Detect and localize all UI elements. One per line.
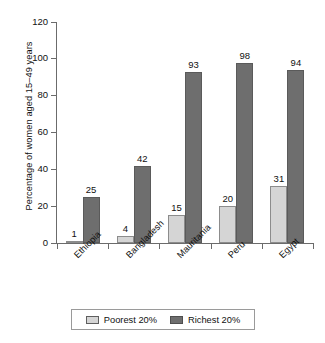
bar-egypt-richest [287, 70, 304, 243]
legend-swatch-poorest-icon [86, 316, 99, 324]
y-axis-tick-label: 60 [18, 126, 48, 137]
legend-label-richest: Richest 20% [188, 315, 240, 325]
y-axis-tick-label: 120 [18, 16, 48, 27]
legend-item-richest: Richest 20% [170, 315, 240, 325]
y-axis-tick-label: 80 [18, 89, 48, 100]
value-label: 1 [62, 228, 86, 239]
y-axis-tick-label: 20 [18, 200, 48, 211]
value-label: 42 [130, 153, 154, 164]
bar-bangladesh-poorest [117, 236, 134, 243]
bar-ethiopia-poorest [66, 241, 83, 243]
value-label: 94 [284, 57, 308, 68]
chart-legend: Poorest 20% Richest 20% [71, 309, 255, 330]
bar-mauritania-poorest [168, 215, 185, 243]
legend-item-poorest: Poorest 20% [86, 315, 157, 325]
bar-egypt-poorest [270, 186, 287, 243]
y-axis-tick-label: 0 [18, 237, 48, 248]
value-label: 4 [113, 223, 137, 234]
bar-chart: Percentage of women aged 15–49 years 020… [0, 0, 325, 343]
y-axis-tick-label: 40 [18, 163, 48, 174]
value-label: 98 [233, 50, 257, 61]
bar-peru-richest [236, 63, 253, 243]
category-labels: EthiopiaBangladeshMauritaniaPeruEgypt [0, 247, 325, 305]
value-label: 93 [182, 59, 206, 70]
value-label: 20 [216, 193, 240, 204]
bar-peru-poorest [219, 206, 236, 243]
value-label: 31 [267, 173, 291, 184]
legend-label-poorest: Poorest 20% [104, 315, 157, 325]
bar-mauritania-richest [185, 72, 202, 243]
value-label: 25 [79, 184, 103, 195]
value-label: 15 [165, 202, 189, 213]
y-axis-tick-label: 100 [18, 52, 48, 63]
legend-swatch-richest-icon [170, 316, 183, 324]
